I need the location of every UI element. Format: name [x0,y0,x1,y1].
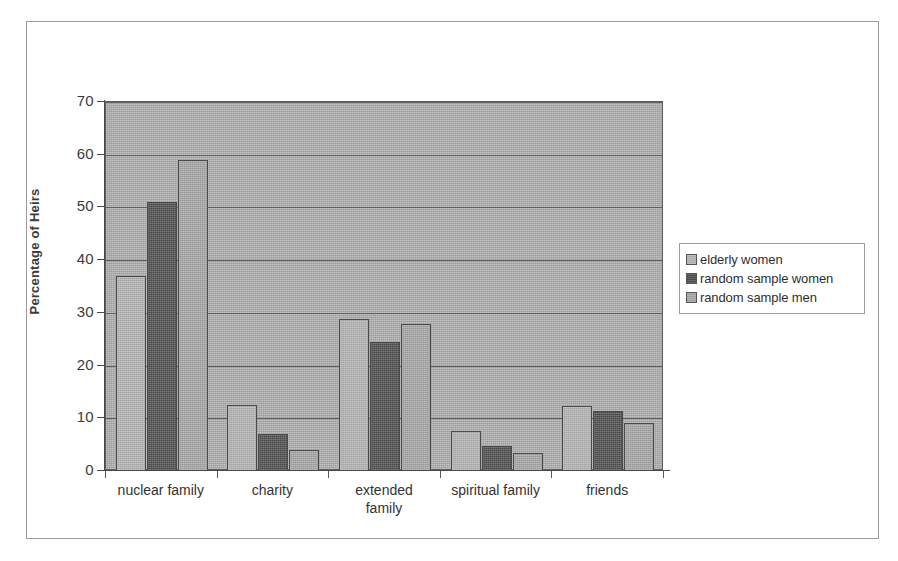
bar-spiritual-family-random-sample-men [513,453,543,471]
y-tick-mark-50 [97,206,105,207]
y-tick-label-40: 40 [77,250,94,267]
legend-swatch-icon-1 [686,273,697,284]
y-tick-mark-60 [97,154,105,155]
x-tick-mark-5 [663,471,664,478]
y-tick-label-70: 70 [77,92,94,109]
bar-extended-family-random-sample-men [401,324,431,471]
bar-friends-random-sample-men [624,423,654,471]
y-tick-label-60: 60 [77,145,94,162]
x-tick-mark-3 [440,471,441,478]
legend-swatch-icon-2 [686,292,697,303]
y-tick-label-10: 10 [77,408,94,425]
y-tick-label-0: 0 [85,461,94,478]
x-axis-line [97,470,670,471]
legend-label-1: random sample women [700,271,833,286]
bar-spiritual-family-random-sample-women [482,446,512,471]
x-tick-mark-0 [105,471,106,478]
bar-spiritual-family-elderly-women [451,431,481,471]
y-tick-label-20: 20 [77,356,94,373]
y-tick-mark-70 [97,101,105,102]
y-axis-line [104,100,105,471]
x-tick-mark-1 [217,471,218,478]
legend-item-0: elderly women [686,250,859,269]
bar-chart: 010203040506070 nuclear familycharityext… [0,0,898,561]
legend-label-2: random sample men [700,290,817,305]
bar-nuclear-family-random-sample-men [178,160,208,471]
plot-area [105,101,663,470]
legend-item-2: random sample men [686,288,859,307]
y-tick-mark-20 [97,365,105,366]
x-tick-mark-4 [551,471,552,478]
bar-charity-elderly-women [227,405,257,471]
y-tick-label-50: 50 [77,197,94,214]
y-tick-mark-30 [97,312,105,313]
bar-friends-elderly-women [562,406,592,471]
bar-nuclear-family-random-sample-women [147,202,177,471]
bar-extended-family-random-sample-women [370,342,400,471]
chart-legend: elderly womenrandom sample womenrandom s… [679,243,865,314]
bar-extended-family-elderly-women [339,319,369,471]
legend-item-1: random sample women [686,269,859,288]
gridline-70 [106,102,662,103]
bar-friends-random-sample-women [593,411,623,471]
legend-swatch-icon-0 [686,254,697,265]
y-tick-mark-40 [97,259,105,260]
x-tick-mark-2 [328,471,329,478]
y-tick-label-30: 30 [77,303,94,320]
y-axis-tick-labels: 010203040506070 [58,0,94,561]
bar-nuclear-family-elderly-women [116,276,146,471]
y-axis-title: Percentage of Heirs [27,172,42,332]
bar-charity-random-sample-men [289,450,319,471]
bar-charity-random-sample-women [258,434,288,471]
legend-label-0: elderly women [700,252,783,267]
y-tick-mark-0 [97,470,105,471]
y-tick-mark-10 [97,417,105,418]
gridline-60 [106,155,662,156]
category-label-4: friends [533,481,681,499]
